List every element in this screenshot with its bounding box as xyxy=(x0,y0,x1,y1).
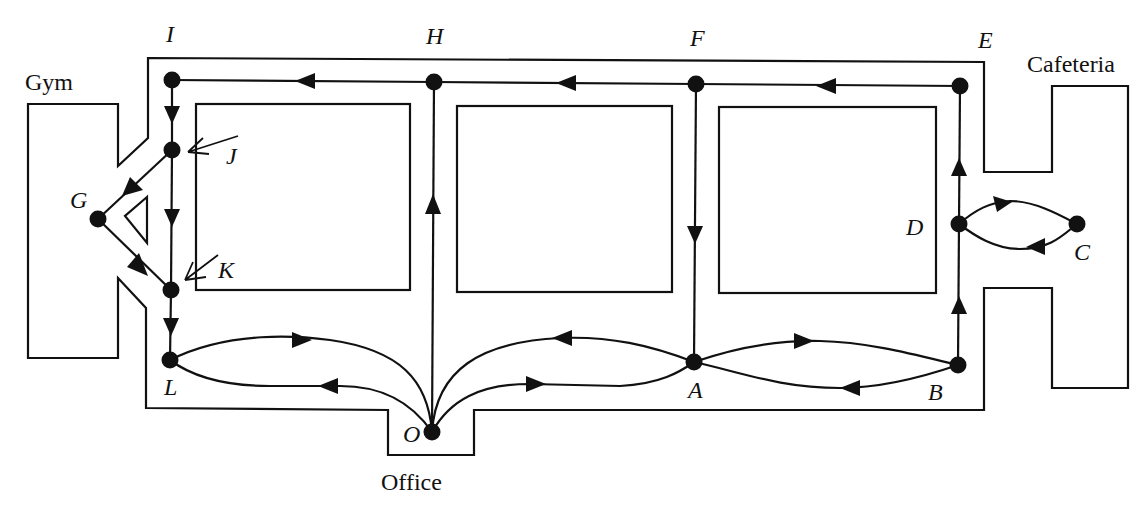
gym-triangle xyxy=(125,197,147,243)
edge-O-L xyxy=(170,360,432,432)
label-H: H xyxy=(425,23,445,49)
pointer-K xyxy=(185,255,218,280)
edge-F-A xyxy=(694,84,696,362)
arrow-left-icon xyxy=(840,380,860,396)
edge-O-H xyxy=(432,82,434,432)
edge-C-D xyxy=(959,224,1077,249)
node-E xyxy=(952,78,969,95)
label-E: E xyxy=(977,27,993,53)
arrow-left-icon xyxy=(556,75,576,91)
edge-G-K xyxy=(98,219,171,290)
room-label-office: Office xyxy=(381,469,442,495)
edge-A-B xyxy=(694,341,958,365)
node-B xyxy=(950,357,967,374)
node-O xyxy=(424,424,441,441)
arrow-left-icon xyxy=(552,330,572,346)
arrow-down-icon xyxy=(687,226,703,244)
node-L xyxy=(162,352,179,369)
arrow-left-icon xyxy=(816,78,836,94)
arrow-left-icon xyxy=(318,378,338,394)
arrow-right-icon xyxy=(993,196,1012,212)
node-J xyxy=(164,142,181,159)
edge-L-O xyxy=(170,337,432,432)
outer-wall xyxy=(28,58,1128,455)
arrow-down-icon xyxy=(163,318,179,336)
label-O: O xyxy=(403,421,420,447)
arrow-down-icon xyxy=(164,106,180,124)
arrow-up-icon xyxy=(951,158,967,176)
edge-D-E xyxy=(959,86,960,224)
arrow-down-icon xyxy=(164,209,180,227)
label-F: F xyxy=(689,25,705,51)
label-L: L xyxy=(163,374,177,400)
label-I: I xyxy=(165,21,175,47)
edge-B-D xyxy=(958,224,959,365)
label-J: J xyxy=(226,143,238,169)
node-C xyxy=(1069,216,1086,233)
building-walls xyxy=(28,58,1128,455)
arrow-right-icon xyxy=(794,333,814,349)
node-G xyxy=(90,211,107,228)
label-K: K xyxy=(217,257,236,283)
arrow-left-icon xyxy=(295,73,315,89)
inner-block-right xyxy=(719,107,936,293)
node-K xyxy=(163,282,180,299)
arrow-left-icon xyxy=(1026,238,1045,255)
room-label-gym: Gym xyxy=(25,69,73,95)
label-A: A xyxy=(686,377,703,403)
node-D xyxy=(951,216,968,233)
arrow-right-icon xyxy=(292,332,312,348)
label-C: C xyxy=(1074,239,1091,265)
room-label-cafeteria: Cafeteria xyxy=(1027,51,1115,77)
node-H xyxy=(426,74,443,91)
edge-O-A xyxy=(432,362,694,432)
edge-D-C xyxy=(959,201,1077,224)
label-G: G xyxy=(70,187,87,213)
floor-plan-graph: I H F E J G K L O A B D C Gym Cafeteria … xyxy=(0,0,1148,512)
arrow-up-icon xyxy=(425,194,441,214)
inner-block-middle xyxy=(457,106,672,292)
arrow-right-icon xyxy=(526,376,546,392)
label-B: B xyxy=(928,379,943,405)
label-D: D xyxy=(905,214,923,240)
edge-B-A xyxy=(694,362,958,388)
arrow-up-icon xyxy=(951,296,967,314)
node-A xyxy=(686,354,703,371)
node-I xyxy=(164,72,181,89)
node-F xyxy=(688,76,705,93)
